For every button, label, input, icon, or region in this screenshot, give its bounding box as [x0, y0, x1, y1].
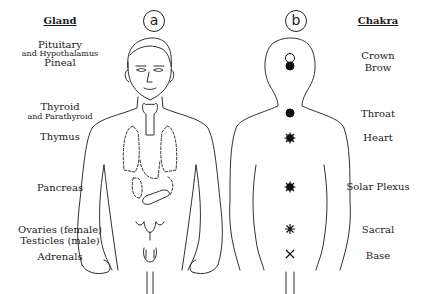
- sacral-asterisk-icon: [285, 224, 295, 234]
- brow-filled-circle-icon: [286, 62, 294, 70]
- chakra-markers: [285, 54, 296, 259]
- heart-starburst-icon: [285, 133, 296, 144]
- organ-outlines: [123, 126, 176, 198]
- crown-open-circle-icon: [286, 54, 295, 63]
- throat-filled-circle-icon: [286, 109, 294, 117]
- front-body-figure: [78, 38, 223, 294]
- body-diagrams: [0, 0, 423, 294]
- back-body-figure: [230, 38, 351, 294]
- solar-plexus-starburst-icon: [285, 182, 296, 193]
- base-cross-icon: [286, 250, 294, 258]
